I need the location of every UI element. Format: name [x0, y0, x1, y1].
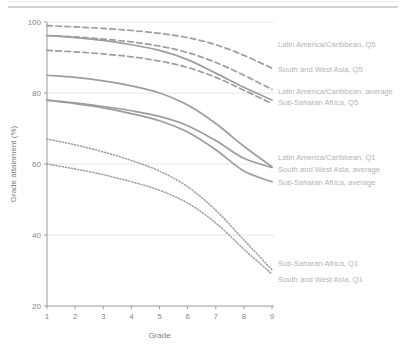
svg-text:9: 9	[270, 312, 275, 321]
series-label: Sub-Saharan Africa, Q5	[278, 98, 358, 107]
series-label: Latin America/Caribbean, average	[278, 87, 393, 96]
svg-text:8: 8	[242, 312, 247, 321]
y-axis-title: Grade attainment (%)	[9, 125, 18, 202]
svg-text:60: 60	[32, 160, 41, 169]
series-line	[47, 35, 272, 100]
series-label: Sub-Saharan Africa, Q1	[278, 259, 358, 268]
y-axis-ticks: 20406080100	[28, 18, 47, 311]
svg-text:80: 80	[32, 89, 41, 98]
svg-text:6: 6	[185, 312, 190, 321]
svg-text:1: 1	[45, 312, 50, 321]
svg-text:5: 5	[157, 312, 162, 321]
x-axis-title: Grade	[148, 331, 171, 340]
series-line	[47, 164, 272, 274]
series-label: Sub-Saharan Africa, average	[278, 178, 376, 187]
series-line	[47, 50, 272, 103]
svg-text:40: 40	[32, 231, 41, 240]
svg-text:4: 4	[129, 312, 134, 321]
series-label: Latin America/Caribbean, Q5	[278, 40, 376, 49]
svg-text:100: 100	[28, 18, 42, 27]
series-lines	[47, 26, 272, 274]
series-line	[47, 35, 272, 89]
svg-text:20: 20	[32, 302, 41, 311]
series-labels: Latin America/Caribbean, Q5South and Wes…	[278, 40, 393, 284]
series-label: South and West Asia, average	[278, 165, 380, 174]
chart-figure: 20406080100 123456789 Latin America/Cari…	[0, 0, 406, 349]
series-label: Latin America/Caribbean, Q1	[278, 153, 376, 162]
gridlines	[47, 22, 274, 235]
line-chart: 20406080100 123456789 Latin America/Cari…	[0, 0, 406, 349]
svg-text:2: 2	[73, 312, 78, 321]
svg-text:3: 3	[101, 312, 106, 321]
svg-text:7: 7	[214, 312, 219, 321]
series-line	[47, 139, 272, 270]
x-axis-ticks: 123456789	[45, 306, 275, 321]
series-label: South and West Asia, Q1	[278, 275, 363, 284]
series-label: South and West Asia, Q5	[278, 65, 363, 74]
series-line	[47, 100, 272, 167]
